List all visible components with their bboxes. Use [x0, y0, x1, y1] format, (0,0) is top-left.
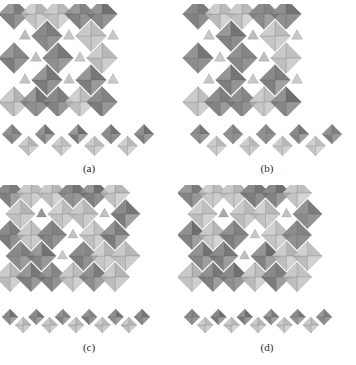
octahedron-face: [21, 87, 36, 102]
octahedron-face: [205, 14, 220, 29]
octahedron-face: [142, 309, 150, 317]
octahedron-face: [234, 235, 249, 250]
octahedron-face: [76, 65, 91, 80]
octahedron-face: [52, 235, 67, 250]
octahedron-face: [260, 36, 275, 51]
panel-b-top-view-svg: [178, 4, 356, 116]
panel-a: (a): [0, 0, 178, 183]
panel-b-top-view: [178, 4, 356, 116]
panel-d: (d): [178, 183, 356, 365]
tetrahedron-face: [107, 30, 118, 40]
octahedron-face: [184, 309, 192, 317]
octahedron-face: [0, 58, 14, 73]
octahedron-face: [250, 146, 260, 156]
octahedron-face: [37, 193, 52, 208]
octahedron-face: [126, 199, 141, 214]
panel-d-side-view: [178, 301, 356, 341]
octahedron-face: [217, 146, 227, 156]
octahedron-face: [0, 87, 14, 102]
octahedron-face: [0, 277, 10, 292]
octahedron-face: [100, 220, 115, 235]
panel-c-caption: (c): [0, 341, 178, 353]
octahedron-face: [289, 134, 299, 144]
octahedron-face: [115, 185, 130, 193]
panel-d-side-view-svg: [178, 301, 356, 341]
octahedron-face: [28, 309, 36, 317]
octahedron-face: [2, 309, 10, 317]
octahedron-face: [308, 241, 323, 256]
octahedral-lattice: [0, 4, 119, 116]
octahedron-face: [332, 124, 342, 134]
octahedron-face: [308, 256, 323, 271]
octahedron-face: [78, 124, 88, 134]
octahedron-face: [102, 87, 117, 102]
tetrahedron-face: [30, 52, 41, 62]
octahedron-face: [144, 134, 154, 144]
octahedral-lattice: [0, 185, 140, 292]
octahedron-face: [289, 124, 299, 134]
octahedron-face: [283, 136, 293, 146]
octahedron-face: [299, 124, 309, 134]
octahedron-face: [178, 262, 192, 277]
octahedron-face: [217, 136, 227, 146]
octahedron-face: [118, 146, 128, 156]
octahedron-face: [283, 146, 293, 156]
octahedron-face: [0, 14, 14, 29]
octahedron-face: [233, 134, 243, 144]
octahedron-face: [242, 43, 257, 58]
octahedron-face: [79, 277, 94, 292]
octahedron-face: [316, 309, 324, 317]
octahedron-face: [207, 146, 217, 156]
octahedron-face: [205, 325, 213, 333]
octahedron-face: [52, 146, 62, 156]
octahedron-face: [205, 87, 220, 102]
tetrahedron-face: [239, 250, 249, 259]
panel-b-side-view-svg: [178, 118, 356, 162]
octahedron-face: [324, 317, 332, 325]
octahedron-face: [68, 325, 76, 333]
tetrahedron-face: [258, 52, 269, 62]
octahedron-face: [65, 87, 80, 102]
octahedron-face: [76, 325, 84, 333]
octahedron-face: [190, 134, 200, 144]
octahedral-chain: [190, 124, 342, 156]
octahedron-face: [198, 58, 213, 73]
octahedron-face: [32, 65, 47, 80]
octahedron-face: [207, 136, 217, 146]
octahedron-face: [14, 43, 29, 58]
octahedral-chain: [2, 124, 154, 156]
octahedron-face: [32, 36, 47, 51]
octahedron-face: [68, 124, 78, 134]
octahedron-face: [183, 58, 198, 73]
octahedron-face: [216, 36, 231, 51]
figure-container: (a) (b) (c) (d): [0, 0, 356, 365]
octahedron-face: [256, 124, 266, 134]
octahedron-face: [45, 134, 55, 144]
octahedron-face: [197, 325, 205, 333]
octahedron-face: [250, 136, 260, 146]
octahedron-face: [251, 214, 266, 229]
tetrahedron-face: [247, 30, 258, 40]
octahedron-face: [178, 235, 192, 250]
octahedron-face: [249, 87, 264, 102]
octahedron-face: [36, 309, 44, 317]
octahedron-face: [126, 241, 141, 256]
octahedron-face: [219, 193, 234, 208]
tetrahedron-face: [203, 74, 214, 84]
octahedron-face: [198, 43, 213, 58]
octahedron-face: [65, 14, 80, 29]
tetrahedron-face: [107, 74, 118, 84]
octahedron-face: [23, 325, 31, 333]
octahedron-face: [271, 309, 279, 317]
tetrahedron-face: [63, 30, 74, 40]
octahedron-face: [250, 325, 258, 333]
octahedron-face: [111, 124, 121, 134]
octahedron-face: [178, 277, 192, 292]
octahedron-face: [115, 277, 130, 292]
octahedron-face: [45, 124, 55, 134]
octahedron-face: [0, 220, 10, 235]
octahedron-face: [192, 309, 200, 317]
octahedron-face: [282, 193, 297, 208]
octahedron-face: [102, 4, 117, 14]
octahedron-face: [42, 325, 50, 333]
